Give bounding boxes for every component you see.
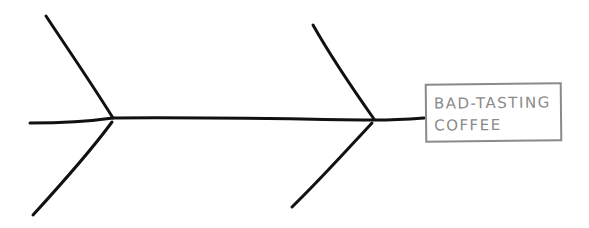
effect-box: BAD-TASTING COFFEE [425,82,563,142]
cause-branch-right-upper [313,25,374,119]
effect-label: BAD-TASTING COFFEE [434,91,551,136]
effect-label-line-2: COFFEE [434,116,502,135]
cause-branch-left-lower [33,122,112,215]
cause-branch-left-upper [46,16,113,118]
effect-label-line-1: BAD-TASTING [434,93,551,112]
spine [30,118,424,123]
cause-branch-right-lower [292,123,372,207]
